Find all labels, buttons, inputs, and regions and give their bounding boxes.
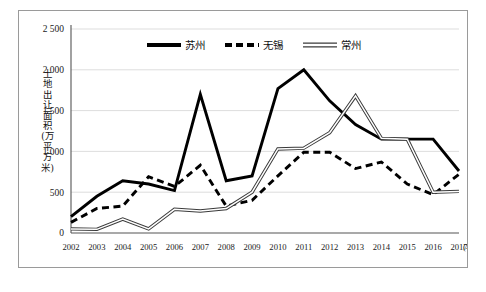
x-tick-label: 2016 (425, 242, 443, 252)
series-line-常州 (71, 96, 459, 229)
y-tick-label: 500 (50, 188, 65, 198)
x-tick-label: 2015 (399, 242, 416, 252)
x-tick-label: 2011 (295, 242, 312, 252)
y-tick-labels-group: 05001 0001 5002 0002 500 (43, 24, 65, 238)
chart-plot-area: 05001 0001 5002 0002 500 200220032004200… (19, 11, 467, 267)
x-axis-unit-group: (年份) (463, 241, 467, 252)
y-tick-label: 2 000 (43, 65, 65, 75)
series-line-苏州 (71, 70, 459, 217)
x-tick-label: 2010 (269, 242, 286, 252)
series-line-inner-常州 (71, 96, 459, 229)
series-line-无锡 (71, 152, 459, 222)
x-tick-label: 2005 (140, 242, 157, 252)
chart-card: 土地出让面积(万平方米) 05001 0001 5002 0002 500 20… (18, 10, 468, 268)
legend-label-常州: 常州 (341, 39, 361, 51)
x-tick-label: 2009 (243, 242, 260, 252)
x-tick-label: 2012 (321, 242, 338, 252)
x-tick-label: 2008 (218, 242, 235, 252)
legend-label-苏州: 苏州 (185, 39, 205, 51)
y-tick-label: 2 500 (43, 24, 65, 34)
x-tick-label: 2007 (192, 242, 210, 252)
x-axis-unit-label: (年份) (463, 241, 467, 252)
x-tick-labels-group: 2002200320042005200620072008200920102011… (62, 242, 467, 252)
legend-label-无锡: 无锡 (263, 39, 283, 51)
x-tick-label: 2014 (373, 242, 391, 252)
data-series-group (71, 70, 459, 230)
legend-group: 苏州无锡常州 (147, 39, 361, 51)
y-tick-label: 1 000 (43, 147, 65, 157)
x-tick-label: 2003 (88, 242, 105, 252)
y-tick-label: 1 500 (43, 106, 65, 116)
x-tick-label: 2013 (347, 242, 364, 252)
line-chart-svg: 05001 0001 5002 0002 500 200220032004200… (19, 11, 467, 267)
x-tick-label: 2004 (114, 242, 132, 252)
x-tick-label: 2006 (166, 242, 184, 252)
x-tick-label: 2002 (62, 242, 79, 252)
y-tick-label: 0 (59, 228, 64, 238)
